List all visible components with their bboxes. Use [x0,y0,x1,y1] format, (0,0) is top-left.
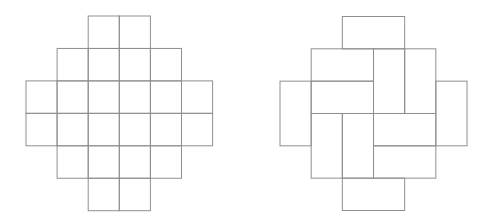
unit-square [88,16,119,48]
domino [311,81,373,113]
unit-square [150,113,181,145]
diagram-canvas [0,0,494,223]
unit-square [182,113,213,145]
unit-square [26,81,57,113]
unit-square [119,146,150,178]
unit-square [119,16,150,48]
unit-square [119,178,150,210]
unit-square [150,81,181,113]
unit-square [119,48,150,80]
domino [405,49,436,114]
unit-square [88,48,119,80]
unit-square [57,48,88,80]
domino [342,178,404,210]
domino [342,113,373,178]
unit-square [182,81,213,113]
diagram-svg [0,0,494,223]
domino [311,113,342,178]
domino [374,113,436,145]
unit-square [88,81,119,113]
domino [436,81,467,146]
domino [374,146,436,178]
domino [342,17,404,49]
unit-square [150,146,181,178]
unit-square [57,146,88,178]
unit-square [150,48,181,80]
unit-square [119,113,150,145]
unit-square [88,146,119,178]
domino [374,49,405,114]
unit-square [57,81,88,113]
unit-square [57,113,88,145]
unit-square [119,81,150,113]
unit-square [88,178,119,210]
unit-square [88,113,119,145]
unit-square [26,113,57,145]
domino [280,81,311,146]
right-figure-domino-tiling [280,17,467,211]
left-figure-unit-square-grid [26,16,213,211]
domino [311,49,373,81]
